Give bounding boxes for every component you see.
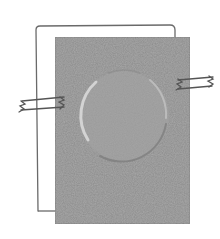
illustration-canvas bbox=[0, 0, 220, 239]
